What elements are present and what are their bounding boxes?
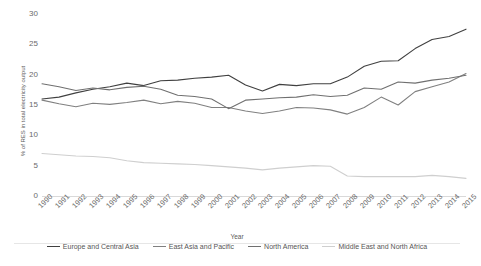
legend-line-icon [322,246,335,247]
legend-label: Europe and Central Asia [63,243,139,250]
series-lines [42,14,466,196]
legend-item[interactable]: North America [248,243,308,250]
y-tick-label: 25 [14,40,38,48]
series-line [42,29,466,99]
legend-item[interactable]: East Asia and Pacific [153,243,234,250]
legend-line-icon [47,246,60,247]
legend-label: Middle East and North Africa [338,243,427,250]
y-tick-label: 5 [14,162,38,170]
legend-line-icon [153,246,166,247]
legend-item[interactable]: Europe and Central Asia [47,243,139,250]
series-line [42,154,466,179]
series-line [42,73,466,114]
plot-area [42,14,466,196]
chart-legend: Europe and Central AsiaEast Asia and Pac… [0,243,474,250]
legend-label: East Asia and Pacific [169,243,234,250]
x-axis-title: Year [0,233,474,240]
y-tick-label: 20 [14,71,38,79]
y-tick-label: 15 [14,101,38,109]
legend-item[interactable]: Middle East and North Africa [322,243,427,250]
y-tick-label: 10 [14,131,38,139]
legend-label: North America [264,243,308,250]
legend-line-icon [248,246,261,247]
x-axis-ticks: 1990199119921993199419951996199719981999… [0,198,474,238]
legend-divider [14,243,460,244]
y-tick-label: 30 [14,10,38,18]
